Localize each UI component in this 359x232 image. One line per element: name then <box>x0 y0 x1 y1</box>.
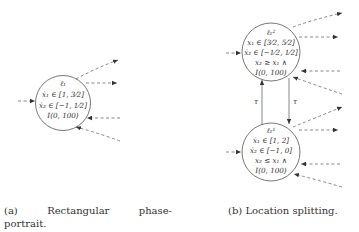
caption-tag: (a) <box>4 204 18 217</box>
node-label: ℓ₁² <box>267 28 276 37</box>
node-constraint: ẋ₁ ∈ [1, 2] <box>253 136 289 145</box>
node-constraint: ẋ₂ ∈ [−1, 0] <box>250 146 292 155</box>
caption-word: Rectangular <box>47 204 109 217</box>
incoming-edge-2 <box>76 127 120 141</box>
diagram-canvas: ℓ₁ ẋ₁ ∈ [1, 3⁄2] ẋ₂ ∈ [−1, 1⁄2] I(0, 100… <box>0 0 359 232</box>
caption-line-2: portrait. <box>4 217 172 230</box>
incoming-edge-bottom-2 <box>294 174 342 187</box>
tau-label: τ <box>293 97 298 106</box>
caption-a: (a) Rectangular phase- portrait. <box>4 204 172 230</box>
figure-b: ℓ₁² x₁ ∈ [3⁄2, 5⁄2] ẋ₂ ∈ [−1⁄2, 1⁄2] x₂ … <box>226 13 342 187</box>
node-constraint: ẋ₁ ∈ [1, 3⁄2] <box>42 90 84 99</box>
outgoing-edge-1 <box>76 60 118 79</box>
node-invariant: I(0, 100) <box>254 166 287 175</box>
node-constraint: ẋ₂ ∈ [−1⁄2, 1⁄2] <box>244 48 298 57</box>
figure-a: ℓ₁ ẋ₁ ∈ [1, 3⁄2] ẋ₂ ∈ [−1, 1⁄2] I(0, 100… <box>18 60 120 141</box>
node-label: ℓ₁ <box>60 79 66 88</box>
incoming-edge-top-2 <box>293 77 342 94</box>
node-guard: x₂ ≤ x₁ ∧ <box>255 156 287 165</box>
caption-word: phase- <box>139 204 172 217</box>
node-label: ℓ₁¹ <box>267 126 276 135</box>
tau-label: τ <box>254 97 259 106</box>
outgoing-edge-top-1 <box>293 13 342 27</box>
node-guard: x₂ ≥ x₁ ∧ <box>255 58 287 67</box>
node-invariant: I(0, 100) <box>254 68 287 77</box>
node-invariant: I(0, 100) <box>46 111 79 120</box>
caption-b: (b) Location splitting. <box>228 204 358 217</box>
node-constraint: x₁ ∈ [3⁄2, 5⁄2] <box>247 38 295 47</box>
node-constraint: ẋ₂ ∈ [−1, 1⁄2] <box>39 101 87 110</box>
outgoing-edge-bottom-1 <box>293 107 342 127</box>
